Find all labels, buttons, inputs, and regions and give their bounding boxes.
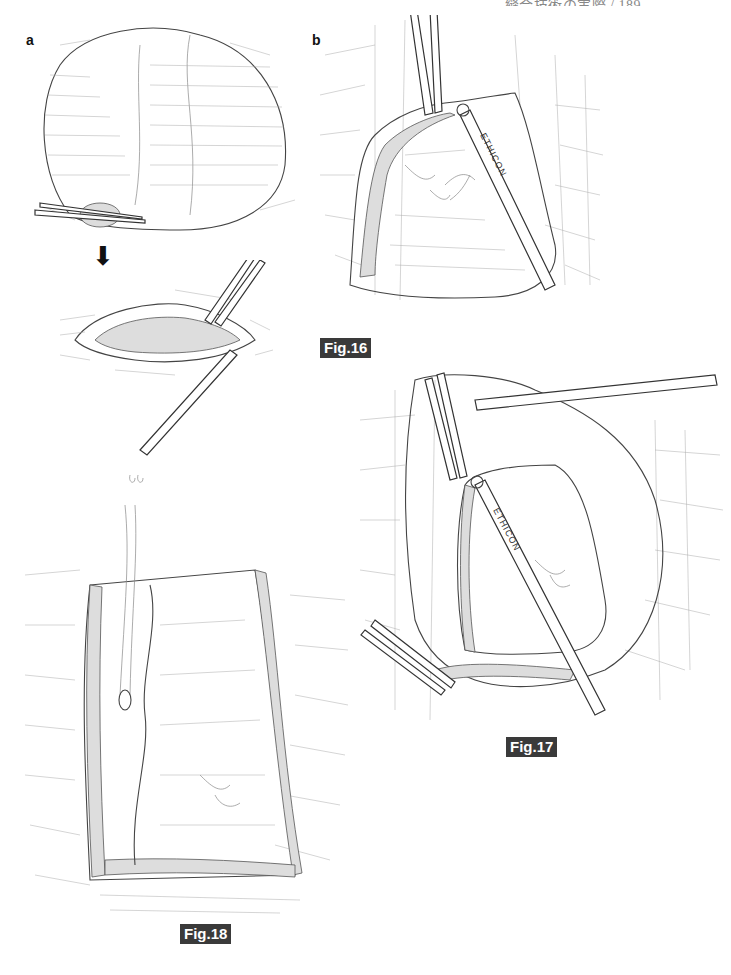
page-header: …縫合技術の実際 / 189: [490, 0, 725, 6]
illustration-fig18: [20, 475, 350, 915]
illustration-panel-a-incision-detail: [55, 260, 275, 460]
illustration-fig16: ETHICON: [315, 15, 605, 305]
page-header-text: …縫合技術の実際 / 189: [490, 0, 641, 6]
fig16-label: Fig.16: [320, 338, 371, 358]
illustration-panel-a-heart: [30, 15, 300, 240]
fig17-label: Fig.17: [506, 737, 557, 757]
fig18-label: Fig.18: [180, 924, 231, 944]
illustration-fig17: ETHICON: [355, 370, 725, 730]
